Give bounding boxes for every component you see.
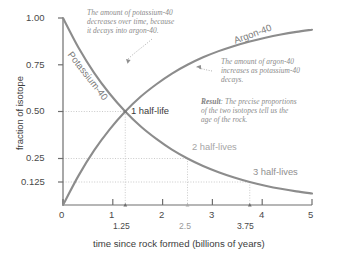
x-subtick-label-25: 2.5 <box>179 221 191 231</box>
x-axis-title: time since rock formed (billions of year… <box>93 238 265 249</box>
x-tick-label-4: 4 <box>259 209 264 220</box>
marker-label-2-half-lives: 2 half-lives <box>192 141 237 152</box>
decay-chart <box>0 0 342 257</box>
x-tick-label-1: 1 <box>109 209 114 220</box>
x-subtick-label-125: 1.25 <box>113 221 130 231</box>
x-tick-label-0: 0 <box>59 209 64 220</box>
annotation-result-note: Result: The precise proportions of the t… <box>201 98 333 124</box>
x-subtick-label-375: 3.75 <box>237 221 254 231</box>
annotation-result-bold: Result <box>201 97 221 106</box>
marker-label-1-half-life: 1 half-life <box>131 105 169 116</box>
annotation-result-line-1-rest: : The precise proportions <box>221 97 297 106</box>
annotation-result-line-3: age of the rock. <box>201 116 333 125</box>
y-tick-label-5: 0.125 <box>21 176 45 187</box>
chart-background <box>0 0 342 257</box>
annotation-potassium-note: The amount of potassium-40 decreases ove… <box>87 9 202 35</box>
y-tick-label-2: 0.75 <box>26 59 45 70</box>
marker-label-3-half-lives: 3 half-lives <box>253 166 298 177</box>
y-axis-title: fraction of isotope <box>14 76 25 150</box>
x-tick-label-3: 3 <box>209 209 214 220</box>
y-tick-label-1: 1.00 <box>26 12 45 23</box>
annotation-argon-note: The amount of argon-40 increases as pota… <box>221 58 333 84</box>
y-tick-label-4: 0.25 <box>26 152 45 163</box>
annotation-argon-line-3: decays. <box>221 76 333 85</box>
halflife-intersection-point <box>124 110 127 113</box>
x-tick-label-5: 5 <box>308 209 313 220</box>
x-tick-label-2: 2 <box>159 209 164 220</box>
y-tick-label-3: 0.50 <box>26 105 45 116</box>
annotation-potassium-line-3: it decays into argon-40. <box>87 27 202 36</box>
